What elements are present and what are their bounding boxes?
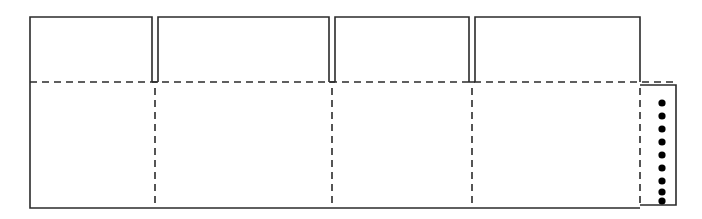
glue-dot (658, 197, 665, 204)
glue-dot (658, 188, 665, 195)
glue-dot (658, 151, 665, 158)
fold-line-group (30, 82, 676, 207)
body-outline (30, 82, 640, 208)
top-panel-2-outline (158, 17, 329, 82)
glue-dot (658, 177, 665, 184)
top-panel-1-outline (30, 17, 152, 82)
cut-contour-group (30, 17, 676, 208)
dieline-canvas (0, 0, 702, 219)
top-panel-4-outline (475, 17, 640, 82)
glue-dot (658, 99, 665, 106)
dieline-drawing (0, 0, 702, 219)
glue-flap-outline (640, 85, 676, 205)
glue-dot (658, 125, 665, 132)
glue-dot-group (658, 99, 665, 204)
glue-dot (658, 112, 665, 119)
glue-dot (658, 164, 665, 171)
top-panel-3-outline (335, 17, 469, 82)
glue-dot (658, 138, 665, 145)
